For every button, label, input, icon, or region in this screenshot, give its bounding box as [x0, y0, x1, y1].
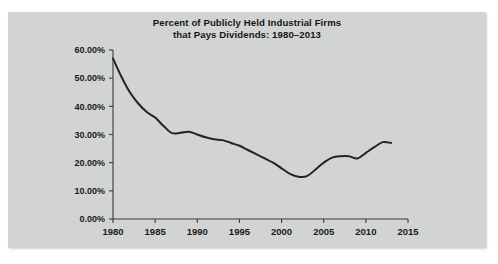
x-axis-ticks: 19801985199019952000200520102015 [102, 219, 419, 237]
x-tick-label: 2000 [271, 226, 292, 237]
y-tick-label: 20.00% [74, 158, 105, 168]
y-tick-label: 10.00% [74, 186, 105, 196]
chart-axes [113, 50, 408, 219]
x-tick-label: 2015 [397, 226, 419, 237]
chart-title-line-2: that Pays Dividends: 1980–2013 [173, 29, 321, 40]
y-tick-label: 30.00% [74, 130, 105, 140]
x-tick-label: 1990 [187, 226, 208, 237]
x-tick-label: 1995 [229, 226, 251, 237]
y-tick-label: 50.00% [74, 73, 105, 83]
x-tick-label: 2005 [313, 226, 335, 237]
y-tick-label: 0.00% [79, 214, 105, 224]
chart-title-line-1: Percent of Publicly Held Industrial Firm… [153, 17, 342, 28]
line-chart: Percent of Publicly Held Industrial Firm… [8, 12, 486, 248]
y-axis-ticks: 0.00%10.00%20.00%30.00%40.00%50.00%60.00… [74, 45, 113, 224]
x-tick-label: 2010 [355, 226, 376, 237]
y-tick-label: 40.00% [74, 102, 105, 112]
x-tick-label: 1980 [102, 226, 123, 237]
x-tick-label: 1985 [145, 226, 167, 237]
data-series-line [113, 58, 391, 177]
chart-figure: Percent of Publicly Held Industrial Firm… [8, 12, 486, 248]
y-tick-label: 60.00% [74, 45, 105, 55]
